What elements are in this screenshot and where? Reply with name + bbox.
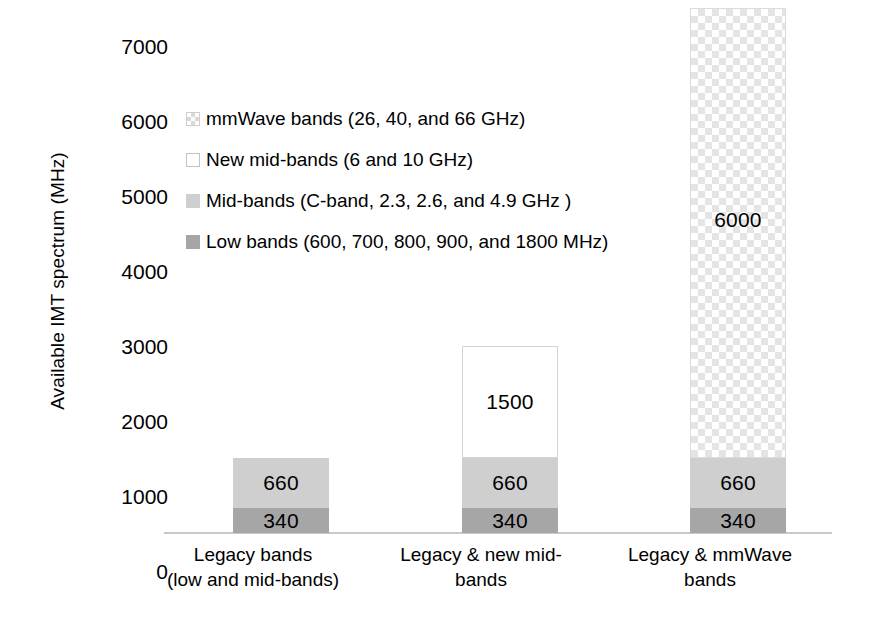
bar-segment-label: 660 — [720, 472, 756, 493]
bar-segment-mid[interactable]: 660 — [690, 458, 786, 508]
chart-legend: mmWave bands (26, 40, and 66 GHz) New mi… — [186, 98, 706, 262]
legend-item-label: mmWave bands (26, 40, and 66 GHz) — [206, 109, 525, 128]
light-gray-square-icon — [186, 194, 200, 208]
y-axis-tick-labels: 7000 6000 5000 4000 3000 2000 1000 0 — [78, 0, 168, 627]
legend-item-mid-bands[interactable]: Mid-bands (C-band, 2.3, 2.6, and 4.9 GHz… — [186, 180, 706, 221]
y-tick-2000: 2000 — [78, 411, 168, 432]
x-tick-line1: Legacy bands — [143, 542, 363, 567]
y-axis-title: Available IMT spectrum (MHz) — [47, 111, 69, 451]
bar-segment-label: 340 — [492, 510, 528, 531]
x-tick-label-legacy-mmwave: Legacy & mmWave bands — [600, 542, 820, 592]
y-tick-6000: 6000 — [78, 111, 168, 132]
bar-legacy-and-new-mid-bands[interactable]: 1500 660 340 — [462, 346, 558, 534]
y-tick-5000: 5000 — [78, 186, 168, 207]
bar-segment-low[interactable]: 340 — [233, 508, 329, 534]
outline-square-icon — [186, 153, 200, 167]
bar-segment-mid[interactable]: 660 — [462, 458, 558, 508]
x-tick-label-legacy-new-mid: Legacy & new mid- bands — [371, 542, 591, 592]
bar-segment-label: 340 — [720, 510, 756, 531]
legend-item-new-mid-bands[interactable]: New mid-bands (6 and 10 GHz) — [186, 139, 706, 180]
x-tick-line2: bands — [371, 567, 591, 592]
bar-segment-label: 660 — [492, 472, 528, 493]
legend-item-mmwave[interactable]: mmWave bands (26, 40, and 66 GHz) — [186, 98, 706, 139]
checkered-icon — [186, 112, 200, 126]
bar-segment-label: 1500 — [486, 391, 534, 412]
x-tick-line1: Legacy & new mid- — [371, 542, 591, 567]
bar-segment-mid[interactable]: 660 — [233, 458, 329, 508]
bar-segment-low[interactable]: 340 — [462, 508, 558, 534]
bar-legacy-bands[interactable]: 660 340 — [233, 458, 329, 533]
bar-segment-label: 340 — [263, 510, 299, 531]
legend-item-label: Mid-bands (C-band, 2.3, 2.6, and 4.9 GHz… — [206, 191, 571, 210]
x-tick-line2: (low and mid-bands) — [143, 567, 363, 592]
stacked-bar-chart: Available IMT spectrum (MHz) 7000 6000 5… — [0, 0, 882, 627]
plot-area: 660 340 1500 660 340 6000 660 — [182, 8, 842, 533]
x-tick-line2: bands — [600, 567, 820, 592]
bar-legacy-and-mmwave-bands[interactable]: 6000 660 340 — [690, 8, 786, 533]
bar-segment-low[interactable]: 340 — [690, 508, 786, 534]
y-tick-4000: 4000 — [78, 261, 168, 282]
bar-segment-label: 660 — [263, 472, 299, 493]
bar-segment-new-mid[interactable]: 1500 — [462, 346, 558, 459]
y-tick-7000: 7000 — [78, 36, 168, 57]
legend-item-label: Low bands (600, 700, 800, 900, and 1800 … — [206, 232, 608, 251]
legend-item-low-bands[interactable]: Low bands (600, 700, 800, 900, and 1800 … — [186, 221, 706, 262]
dark-gray-square-icon — [186, 235, 200, 249]
legend-item-label: New mid-bands (6 and 10 GHz) — [206, 150, 473, 169]
x-tick-label-legacy-bands: Legacy bands (low and mid-bands) — [143, 542, 363, 592]
y-tick-1000: 1000 — [78, 486, 168, 507]
y-tick-3000: 3000 — [78, 336, 168, 357]
bar-segment-label: 6000 — [714, 209, 762, 230]
x-tick-line1: Legacy & mmWave — [600, 542, 820, 567]
